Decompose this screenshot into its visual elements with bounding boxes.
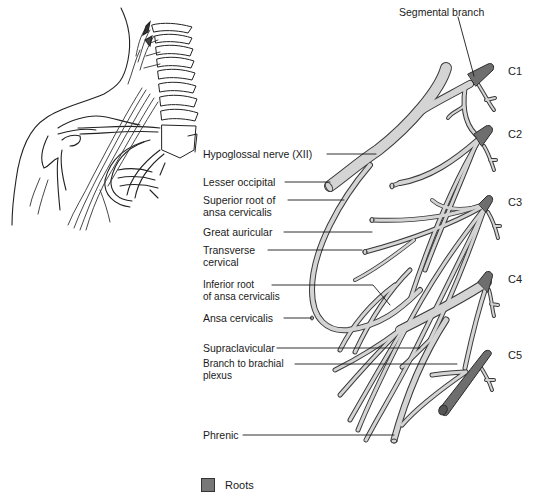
label-phrenic: Phrenic bbox=[203, 429, 239, 441]
root-label-c1: C1 bbox=[508, 65, 522, 77]
root-label-c4: C4 bbox=[508, 273, 522, 285]
label-transverse-cervical: Transverse cervical bbox=[203, 244, 255, 268]
label-segmental-branch: Segmental branch bbox=[399, 6, 484, 18]
shoulder-inset-illustration bbox=[12, 8, 198, 230]
label-branch-brachial-plexus: Branch to brachial plexus bbox=[203, 358, 284, 382]
legend-label-roots: Roots bbox=[225, 479, 254, 491]
label-hypoglossal-nerve: Hypoglossal nerve (XII) bbox=[203, 148, 312, 160]
diagram-artwork bbox=[0, 0, 535, 504]
label-inferior-root: Inferior root of ansa cervicalis bbox=[203, 279, 280, 303]
legend: Roots bbox=[201, 478, 254, 492]
label-great-auricular: Great auricular bbox=[203, 226, 272, 238]
root-label-c5: C5 bbox=[508, 349, 522, 361]
root-label-c2: C2 bbox=[508, 128, 522, 140]
label-lesser-occipital: Lesser occipital bbox=[203, 176, 275, 188]
roots-swatch-icon bbox=[201, 478, 215, 492]
cervical-plexus-diagram: Segmental branch Hypoglossal nerve (XII)… bbox=[0, 0, 535, 504]
label-ansa-cervicalis: Ansa cervicalis bbox=[203, 312, 273, 324]
root-label-c3: C3 bbox=[508, 196, 522, 208]
label-supraclavicular: Supraclavicular bbox=[203, 342, 275, 354]
label-superior-root: Superior root of ansa cervicalis bbox=[203, 194, 275, 218]
